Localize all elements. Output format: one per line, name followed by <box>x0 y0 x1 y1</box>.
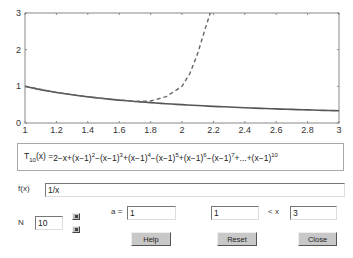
formula-term: −(x−1)7 <box>207 153 235 163</box>
reset-button[interactable]: Reset <box>217 232 257 246</box>
formula-term: −(x−1)3 <box>95 153 123 163</box>
n-increment-button[interactable] <box>72 213 80 220</box>
x-tick-label: 2 <box>179 125 184 135</box>
fx-input[interactable]: 1/x <box>45 183 345 197</box>
formula-terms: 2−x+(x−1)2−(x−1)3+(x−1)4−(x−1)5+(x−1)6−(… <box>53 152 278 163</box>
y-tick-label: 2 <box>16 45 21 55</box>
formula-term: +(x−1)4 <box>123 153 151 163</box>
x-tick-label: 1.4 <box>82 125 95 135</box>
x-tick-label: 1.6 <box>113 125 126 135</box>
a-label: a = <box>111 207 122 216</box>
plot-area <box>25 13 339 123</box>
lt-x-label: < x <box>268 207 279 216</box>
formula-term: +(x−1)6 <box>179 153 207 163</box>
n-decrement-button[interactable] <box>72 226 80 233</box>
x-tick-label: 1.8 <box>144 125 157 135</box>
taylor-plot: 11.21.41.61.822.22.42.62.830123 <box>0 0 353 140</box>
x-tick-label: 1 <box>22 125 27 135</box>
formula-lhs: T10(x) = <box>24 151 53 163</box>
x-tick-label: 2.6 <box>270 125 283 135</box>
a-input[interactable]: 1 <box>127 206 176 220</box>
xmax-input[interactable]: 3 <box>290 206 337 220</box>
y-tick-label: 1 <box>16 81 21 91</box>
x-tick-label: 1.2 <box>50 125 63 135</box>
y-tick-label: 3 <box>16 8 21 18</box>
x-tick-label: 3 <box>336 125 341 135</box>
n-input[interactable]: 10 <box>35 216 63 230</box>
xmin-input[interactable]: 1 <box>211 206 259 220</box>
fx-label: f(x) <box>18 184 30 193</box>
x-tick-label: 2.4 <box>239 125 252 135</box>
y-tick-label: 0 <box>16 118 21 128</box>
formula-term: +...+(x−1)10 <box>235 153 278 163</box>
formula-term: −(x−1)5 <box>151 153 179 163</box>
formula-term: 2−x+(x−1)2 <box>53 153 95 163</box>
x-tick-label: 2.2 <box>207 125 220 135</box>
close-button[interactable]: Close <box>298 232 337 246</box>
help-button[interactable]: Help <box>131 232 171 246</box>
x-tick-label: 2.8 <box>301 125 314 135</box>
taylor-formula: T10(x) = 2−x+(x−1)2−(x−1)3+(x−1)4−(x−1)5… <box>17 143 344 171</box>
n-label: N <box>18 218 24 227</box>
